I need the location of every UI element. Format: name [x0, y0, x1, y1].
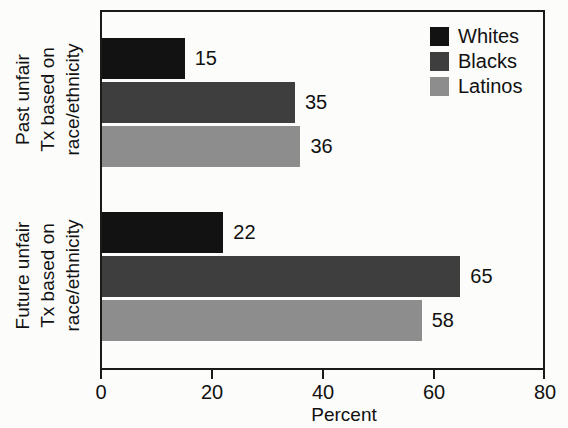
- legend: Whites Blacks Latinos: [430, 24, 523, 99]
- bar-past-blacks: [102, 82, 295, 123]
- x-tick-80: [543, 370, 545, 379]
- x-tick-label-40: 40: [312, 381, 334, 404]
- x-tick-label-60: 60: [423, 381, 445, 404]
- legend-item-latinos: Latinos: [430, 74, 523, 99]
- x-tick-0: [100, 370, 102, 379]
- category-label-future: Future unfair Tx based on race/ethnicity: [10, 186, 85, 366]
- bar-value-future-latinos: 58: [432, 300, 454, 341]
- x-tick-60: [433, 370, 435, 379]
- x-axis-title: Percent: [0, 404, 568, 426]
- x-axis-title-text: Percent: [311, 404, 376, 425]
- x-tick-20: [211, 370, 213, 379]
- legend-label-blacks: Blacks: [458, 50, 517, 73]
- category-label-past: Past unfair Tx based on race/ethnicity: [10, 10, 85, 190]
- bar-value-future-blacks: 65: [470, 256, 492, 297]
- bar-value-past-blacks: 35: [305, 82, 327, 123]
- x-tick-label-80: 80: [534, 381, 556, 404]
- x-tick-40: [322, 370, 324, 379]
- bar-future-blacks: [102, 256, 460, 297]
- legend-item-blacks: Blacks: [430, 49, 523, 74]
- legend-swatch-icon-blacks: [430, 52, 449, 71]
- bar-value-future-whites: 22: [233, 212, 255, 253]
- x-tick-label-0: 0: [95, 381, 106, 404]
- bar-chart-figure: 15 35 36 22 65 58 0 20 40 60 80 Percent …: [0, 0, 568, 428]
- legend-swatch-icon-latinos: [430, 77, 449, 96]
- bar-future-whites: [102, 212, 223, 253]
- legend-swatch-icon-whites: [430, 27, 449, 46]
- bar-value-past-whites: 15: [195, 38, 217, 79]
- x-tick-label-20: 20: [201, 381, 223, 404]
- bar-past-latinos: [102, 126, 300, 167]
- bar-future-latinos: [102, 300, 422, 341]
- bar-past-whites: [102, 38, 185, 79]
- legend-label-whites: Whites: [458, 25, 519, 48]
- legend-label-latinos: Latinos: [458, 75, 523, 98]
- bar-value-past-latinos: 36: [310, 126, 332, 167]
- legend-item-whites: Whites: [430, 24, 523, 49]
